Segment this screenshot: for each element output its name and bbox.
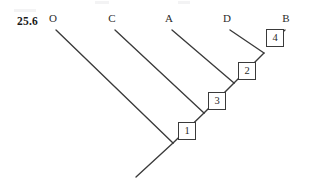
branch-A — [172, 30, 234, 83]
figure-number: 25.6 — [17, 16, 38, 28]
node-box-1: 1 — [178, 122, 196, 140]
cladogram-lines — [0, 0, 309, 187]
node-box-3: 3 — [208, 92, 226, 110]
taxon-label-b: B — [279, 13, 293, 24]
node-box-2: 2 — [238, 62, 256, 80]
taxon-label-a: A — [162, 13, 176, 24]
branch-O — [56, 30, 173, 143]
taxon-label-o: O — [46, 13, 60, 24]
root-stem — [136, 143, 173, 177]
branch-D — [230, 30, 264, 53]
phylogenetic-tree-figure: 25.6 OCADB 1324 — [0, 0, 309, 187]
taxon-label-c: C — [105, 13, 119, 24]
taxon-label-d: D — [220, 13, 234, 24]
node-box-4: 4 — [266, 29, 284, 47]
